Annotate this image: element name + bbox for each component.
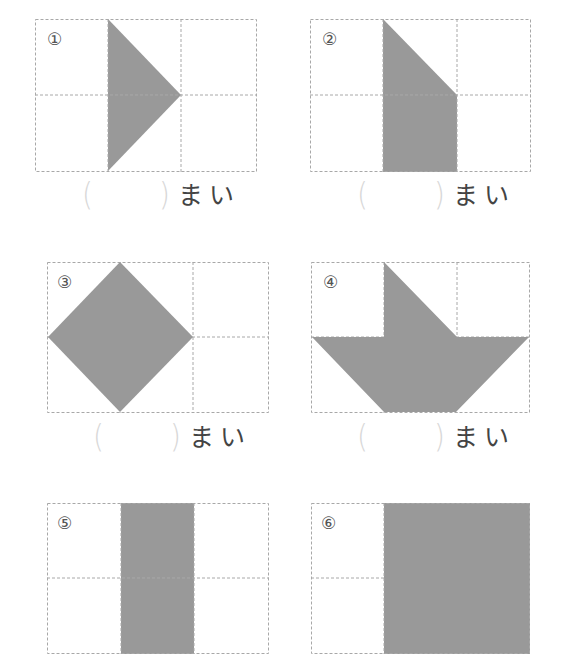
answer-row-4: ( ) まい <box>357 420 515 454</box>
answer-blank[interactable] <box>104 422 170 452</box>
problem-5: ⑤ <box>47 503 269 654</box>
unit-label: まい <box>453 183 515 208</box>
open-paren: ( <box>93 421 104 453</box>
boat-shape <box>312 262 529 412</box>
close-paren: ) <box>159 179 170 211</box>
close-paren: ) <box>434 421 445 453</box>
open-paren: ( <box>82 179 93 211</box>
problem-1: ① <box>35 19 257 172</box>
problem-number: ④ <box>323 274 338 291</box>
grid-figure-6 <box>311 503 530 654</box>
problem-number: ⑥ <box>321 515 336 532</box>
problem-number: ⑤ <box>57 515 72 532</box>
grid-figure-1 <box>35 19 257 172</box>
unit-label: まい <box>189 425 251 450</box>
unit-label: まい <box>178 183 240 208</box>
problem-6: ⑥ <box>311 503 530 654</box>
wide-rectangle-shape <box>384 503 530 654</box>
answer-row-3: ( ) まい <box>93 420 251 454</box>
problem-number: ① <box>47 31 62 48</box>
open-paren: ( <box>357 179 368 211</box>
grid-figure-5 <box>47 503 269 654</box>
answer-row-2: ( ) まい <box>357 178 515 212</box>
open-paren: ( <box>357 421 368 453</box>
grid-figure-4 <box>311 262 530 413</box>
problem-number: ③ <box>57 274 72 291</box>
answer-blank[interactable] <box>93 180 159 210</box>
answer-row-1: ( ) まい <box>82 178 240 212</box>
unit-label: まい <box>453 425 515 450</box>
problem-number: ② <box>322 31 337 48</box>
problem-2: ② <box>310 19 531 172</box>
close-paren: ) <box>170 421 181 453</box>
problem-3: ③ <box>47 262 269 413</box>
problem-4: ④ <box>311 262 530 413</box>
answer-blank[interactable] <box>368 180 434 210</box>
grid-figure-3 <box>47 262 269 413</box>
close-paren: ) <box>434 179 445 211</box>
grid-figure-2 <box>310 19 531 172</box>
answer-blank[interactable] <box>368 422 434 452</box>
